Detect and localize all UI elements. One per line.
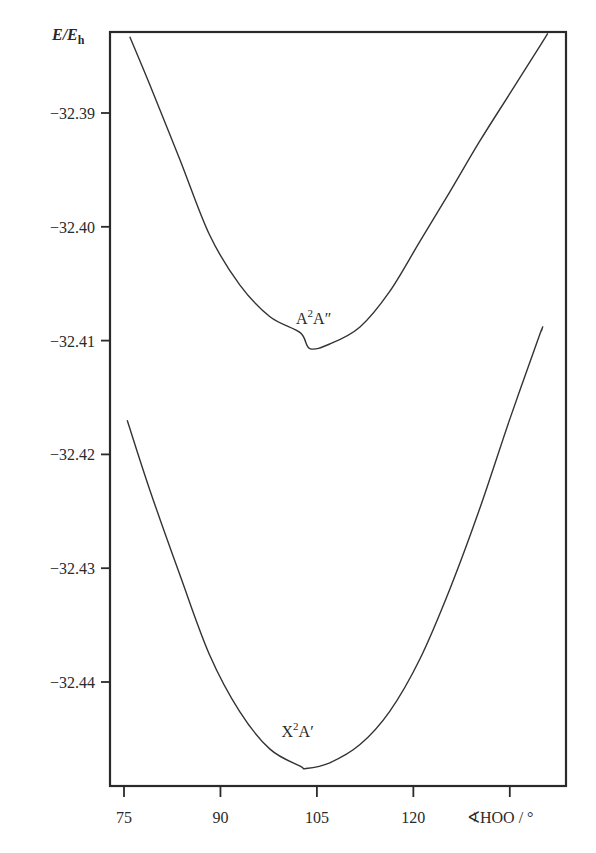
potential-energy-chart: E/Eh −32.39−32.40−32.41−32.42−32.43−32.4… [0, 0, 596, 853]
y-tick-label: −32.44 [50, 674, 95, 691]
y-tick-label: −32.41 [50, 333, 95, 350]
curve-a2a-double-prime [130, 33, 548, 349]
x-tick-label: 90 [212, 809, 228, 826]
y-axis-label-main: E/E [51, 26, 78, 43]
y-tick-label: −32.43 [50, 560, 95, 577]
curves [127, 33, 548, 769]
curve-labels: A2A″X2A′ [282, 307, 332, 740]
label-x2a-prime: X2A′ [282, 720, 314, 740]
y-axis-label: E/Eh [51, 26, 85, 47]
y-tick-label: −32.39 [50, 105, 95, 122]
svg-text:E/Eh: E/Eh [51, 26, 85, 47]
x-axis-label: ∢HOO / ° [467, 809, 534, 826]
y-tick-label: −32.42 [50, 446, 95, 463]
y-axis-ticks: −32.39−32.40−32.41−32.42−32.43−32.44 [50, 105, 110, 691]
y-axis-label-sub: h [78, 33, 85, 47]
x-axis-ticks: 7590105120 [116, 786, 510, 826]
x-tick-label: 105 [305, 809, 329, 826]
x-tick-label: 120 [401, 809, 425, 826]
y-tick-label: −32.40 [50, 219, 95, 236]
label-a2a-double-prime: A2A″ [296, 307, 331, 327]
plot-frame [110, 32, 566, 786]
curve-x2a-prime [127, 327, 542, 769]
x-tick-label: 75 [116, 809, 132, 826]
